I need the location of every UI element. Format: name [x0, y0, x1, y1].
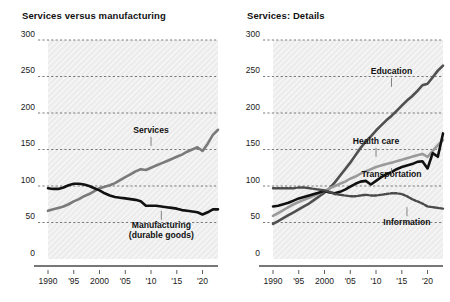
x-axis-tick-label: 1990 [39, 276, 58, 286]
y-axis-tick-label: 50 [26, 211, 36, 221]
x-axis-tick-label: 2000 [90, 276, 109, 286]
series-label: Manufacturing(durable goods) [129, 220, 194, 240]
y-axis-tick-label: 0 [30, 248, 35, 258]
y-axis-tick-label: 250 [21, 65, 35, 75]
series-label: Education [371, 66, 413, 76]
y-axis-tick-label: 300 [21, 29, 35, 39]
x-axis-tick-label: '10 [370, 276, 381, 286]
x-axis-tick-label: '20 [422, 276, 433, 286]
y-axis-tick-label: 200 [246, 102, 260, 112]
y-axis-tick-label: 150 [246, 138, 260, 148]
y-axis-tick-label: 0 [255, 248, 260, 258]
y-axis-tick-label: 150 [21, 138, 35, 148]
x-axis-tick-label: '15 [396, 276, 407, 286]
chart-panel-services-details: Services: Details 0501001502002503001990… [225, 0, 450, 302]
y-axis-tick-label: 300 [246, 29, 260, 39]
y-axis-tick-label: 200 [21, 102, 35, 112]
x-axis-tick-label: 1990 [264, 276, 283, 286]
series-label: Services [133, 125, 169, 135]
chart-svg-left: 0501001502002503001990'952000'05'10'15'2… [0, 0, 225, 302]
y-axis-tick-label: 50 [251, 211, 261, 221]
x-axis-tick-label: 2000 [315, 276, 334, 286]
y-axis-tick-label: 100 [21, 175, 35, 185]
x-axis-tick-label: '95 [293, 276, 304, 286]
chart-panel-services-versus-manufacturing: Services versus manufacturing 0501001502… [0, 0, 225, 302]
x-axis-tick-label: '15 [171, 276, 182, 286]
x-axis-tick-label: '05 [345, 276, 356, 286]
plot-area-left: 0501001502002503001990'952000'05'10'15'2… [0, 0, 225, 302]
plot-area-right: 0501001502002503001990'952000'05'10'15'2… [225, 0, 450, 302]
y-axis-tick-label: 250 [246, 65, 260, 75]
figure-root: Services versus manufacturing 0501001502… [0, 0, 450, 302]
x-axis-tick-label: '10 [145, 276, 156, 286]
x-axis-tick-label: '05 [120, 276, 131, 286]
y-axis-tick-label: 100 [246, 175, 260, 185]
series-label: Information [383, 217, 430, 227]
series-label: Health care [353, 136, 400, 146]
x-axis-tick-label: '95 [68, 276, 79, 286]
x-axis-tick-label: '20 [197, 276, 208, 286]
chart-svg-right: 0501001502002503001990'952000'05'10'15'2… [225, 0, 450, 302]
